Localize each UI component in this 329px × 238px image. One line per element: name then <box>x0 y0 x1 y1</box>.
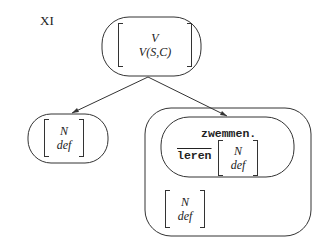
word-zwemmen: zwemmen. <box>201 127 256 140</box>
left-child-feature: def <box>57 138 72 152</box>
inner-matrix-feature: def <box>231 158 246 172</box>
root-node-matrix: V V(S,C) <box>118 23 192 67</box>
outer-matrix-feature: def <box>178 209 193 223</box>
outer-matrix: N def <box>165 190 205 228</box>
inner-matrix: N def <box>218 140 258 176</box>
root-category: V <box>151 31 158 45</box>
word-leren: leren <box>177 149 212 162</box>
right-bracket <box>79 119 84 157</box>
outer-matrix-category: N <box>181 195 189 209</box>
right-bracket <box>200 190 205 228</box>
inner-matrix-category: N <box>234 144 242 158</box>
root-valency: V(S,C) <box>139 45 171 59</box>
left-child-category: N <box>60 124 68 138</box>
left-child-matrix: N def <box>44 119 84 157</box>
example-label: XI <box>40 13 54 29</box>
right-bracket <box>253 140 258 176</box>
right-bracket <box>187 23 192 67</box>
